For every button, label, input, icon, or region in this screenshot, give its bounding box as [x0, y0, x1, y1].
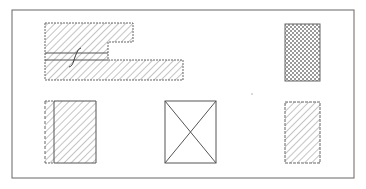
stray-mark [251, 93, 253, 95]
x-box [165, 101, 216, 163]
partial-hatch-rect [45, 101, 96, 163]
crosshatch-rect [285, 24, 320, 81]
diagram-canvas [0, 0, 366, 189]
stepped-section [45, 23, 183, 80]
dashed-hatch-rect [285, 102, 320, 163]
diagram-svg [0, 0, 366, 189]
